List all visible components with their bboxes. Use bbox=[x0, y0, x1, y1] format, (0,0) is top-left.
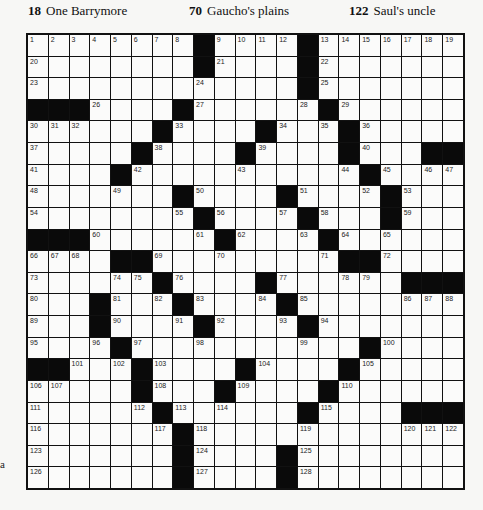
grid-cell[interactable]: 87 bbox=[422, 294, 442, 315]
grid-cell[interactable] bbox=[443, 121, 463, 142]
grid-cell[interactable] bbox=[360, 403, 380, 424]
grid-cell[interactable] bbox=[236, 251, 256, 272]
grid-cell[interactable]: 22 bbox=[319, 57, 339, 78]
grid-cell[interactable] bbox=[173, 381, 193, 402]
grid-cell[interactable] bbox=[132, 186, 152, 207]
grid-cell[interactable] bbox=[422, 121, 442, 142]
grid-cell[interactable] bbox=[70, 273, 90, 294]
grid-cell[interactable]: 109 bbox=[236, 381, 256, 402]
grid-cell[interactable] bbox=[215, 446, 235, 467]
grid-cell[interactable] bbox=[173, 57, 193, 78]
grid-cell[interactable] bbox=[194, 251, 214, 272]
grid-cell[interactable]: 18 bbox=[422, 35, 442, 56]
grid-cell[interactable] bbox=[215, 338, 235, 359]
grid-cell[interactable] bbox=[360, 294, 380, 315]
grid-cell[interactable] bbox=[277, 403, 297, 424]
grid-cell[interactable] bbox=[319, 165, 339, 186]
grid-cell[interactable] bbox=[360, 424, 380, 445]
grid-cell[interactable] bbox=[402, 467, 422, 488]
grid-cell[interactable]: 120 bbox=[402, 424, 422, 445]
grid-cell[interactable] bbox=[111, 143, 131, 164]
grid-cell[interactable] bbox=[256, 78, 276, 99]
grid-cell[interactable] bbox=[111, 208, 131, 229]
grid-cell[interactable] bbox=[70, 467, 90, 488]
grid-cell[interactable]: 54 bbox=[28, 208, 48, 229]
grid-cell[interactable] bbox=[402, 165, 422, 186]
grid-cell[interactable]: 75 bbox=[132, 273, 152, 294]
grid-cell[interactable] bbox=[422, 57, 442, 78]
grid-cell[interactable] bbox=[256, 230, 276, 251]
grid-cell[interactable] bbox=[111, 446, 131, 467]
grid-cell[interactable] bbox=[132, 57, 152, 78]
grid-cell[interactable] bbox=[381, 78, 401, 99]
grid-cell[interactable] bbox=[277, 381, 297, 402]
grid-cell[interactable]: 33 bbox=[173, 121, 193, 142]
grid-cell[interactable] bbox=[215, 100, 235, 121]
grid-cell[interactable] bbox=[194, 403, 214, 424]
grid-cell[interactable] bbox=[339, 208, 359, 229]
grid-cell[interactable] bbox=[215, 273, 235, 294]
grid-cell[interactable] bbox=[70, 208, 90, 229]
grid-cell[interactable]: 53 bbox=[402, 186, 422, 207]
grid-cell[interactable] bbox=[360, 208, 380, 229]
grid-cell[interactable] bbox=[443, 381, 463, 402]
grid-cell[interactable] bbox=[236, 424, 256, 445]
grid-cell[interactable]: 40 bbox=[360, 143, 380, 164]
grid-cell[interactable]: 95 bbox=[28, 338, 48, 359]
grid-cell[interactable]: 5 bbox=[111, 35, 131, 56]
grid-cell[interactable]: 99 bbox=[298, 338, 318, 359]
grid-cell[interactable] bbox=[298, 165, 318, 186]
grid-cell[interactable]: 57 bbox=[277, 208, 297, 229]
grid-cell[interactable]: 29 bbox=[339, 100, 359, 121]
grid-cell[interactable]: 94 bbox=[319, 316, 339, 337]
grid-cell[interactable]: 3 bbox=[70, 35, 90, 56]
grid-cell[interactable]: 91 bbox=[173, 316, 193, 337]
grid-cell[interactable] bbox=[360, 446, 380, 467]
grid-cell[interactable] bbox=[402, 251, 422, 272]
grid-cell[interactable] bbox=[194, 381, 214, 402]
grid-cell[interactable]: 48 bbox=[28, 186, 48, 207]
grid-cell[interactable] bbox=[443, 316, 463, 337]
grid-cell[interactable]: 20 bbox=[28, 57, 48, 78]
grid-cell[interactable] bbox=[90, 78, 110, 99]
grid-cell[interactable]: 28 bbox=[298, 100, 318, 121]
grid-cell[interactable] bbox=[319, 143, 339, 164]
grid-cell[interactable] bbox=[49, 165, 69, 186]
grid-cell[interactable] bbox=[153, 446, 173, 467]
grid-cell[interactable] bbox=[422, 251, 442, 272]
grid-cell[interactable] bbox=[277, 424, 297, 445]
grid-cell[interactable] bbox=[402, 57, 422, 78]
grid-cell[interactable]: 64 bbox=[339, 230, 359, 251]
grid-cell[interactable] bbox=[339, 424, 359, 445]
grid-cell[interactable] bbox=[256, 251, 276, 272]
grid-cell[interactable] bbox=[111, 230, 131, 251]
grid-cell[interactable] bbox=[236, 57, 256, 78]
grid-cell[interactable]: 27 bbox=[194, 100, 214, 121]
grid-cell[interactable]: 47 bbox=[443, 165, 463, 186]
grid-cell[interactable]: 73 bbox=[28, 273, 48, 294]
grid-cell[interactable] bbox=[381, 57, 401, 78]
grid-cell[interactable] bbox=[111, 78, 131, 99]
grid-cell[interactable] bbox=[49, 467, 69, 488]
grid-cell[interactable]: 97 bbox=[132, 338, 152, 359]
grid-cell[interactable] bbox=[153, 186, 173, 207]
grid-cell[interactable] bbox=[70, 78, 90, 99]
grid-cell[interactable] bbox=[360, 57, 380, 78]
grid-cell[interactable] bbox=[298, 251, 318, 272]
grid-cell[interactable] bbox=[132, 467, 152, 488]
grid-cell[interactable] bbox=[339, 338, 359, 359]
grid-cell[interactable] bbox=[256, 208, 276, 229]
grid-cell[interactable] bbox=[339, 57, 359, 78]
grid-cell[interactable] bbox=[194, 143, 214, 164]
grid-cell[interactable] bbox=[256, 100, 276, 121]
grid-cell[interactable] bbox=[298, 381, 318, 402]
grid-cell[interactable] bbox=[381, 100, 401, 121]
grid-cell[interactable] bbox=[111, 100, 131, 121]
grid-cell[interactable]: 67 bbox=[49, 251, 69, 272]
grid-cell[interactable] bbox=[402, 446, 422, 467]
grid-cell[interactable] bbox=[236, 467, 256, 488]
grid-cell[interactable] bbox=[111, 57, 131, 78]
grid-cell[interactable] bbox=[49, 403, 69, 424]
grid-cell[interactable] bbox=[70, 294, 90, 315]
grid-cell[interactable] bbox=[132, 230, 152, 251]
